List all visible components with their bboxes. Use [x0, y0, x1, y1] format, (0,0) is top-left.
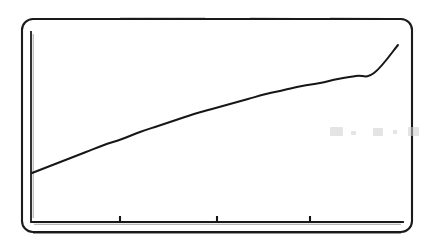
figure-container: Photocopied line chart showing a single …: [0, 0, 430, 249]
chart-canvas: [0, 0, 430, 249]
chart-background: [0, 0, 430, 249]
